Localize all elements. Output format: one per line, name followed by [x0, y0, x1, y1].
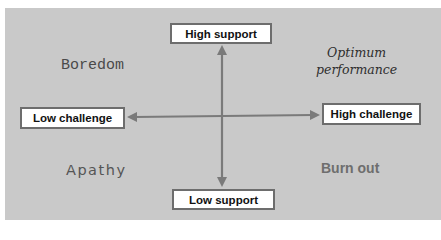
high-support-label: High support: [170, 23, 272, 44]
optimum-line-1: Optimum: [316, 44, 397, 61]
optimum-line-2: performance: [316, 61, 397, 78]
quadrant-apathy: Apathy: [66, 162, 126, 178]
high-challenge-label: High challenge: [322, 103, 421, 125]
quadrant-burn-out: Burn out: [321, 160, 379, 176]
horizontal-axis-arrow: [127, 110, 320, 122]
quadrant-optimum-performance: Optimum performance: [316, 44, 397, 78]
quadrant-boredom: Boredom: [61, 57, 124, 74]
low-challenge-label: Low challenge: [20, 107, 125, 129]
low-support-label: Low support: [172, 189, 275, 210]
